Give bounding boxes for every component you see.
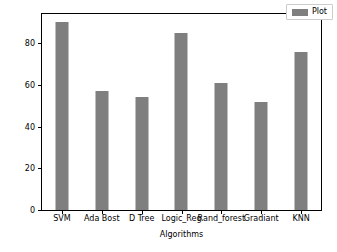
bar-svm[interactable]: [55, 22, 68, 210]
bar-slot: [42, 14, 82, 210]
plot-area: 020406080SVMAda BostD TreeLogic_RegRand_…: [42, 14, 321, 210]
bar-slot: [201, 14, 241, 210]
bar-logic-reg[interactable]: [175, 33, 188, 210]
x-axis-tick-label: D Tree: [129, 215, 154, 223]
x-axis-tick-label: KNN: [292, 215, 309, 223]
y-axis-tick-label: 0: [30, 207, 35, 215]
bar-slot: [122, 14, 162, 210]
y-axis-tick-label: 60: [25, 82, 35, 90]
bar-knn[interactable]: [295, 52, 308, 210]
bar-ada-bost[interactable]: [95, 91, 108, 210]
bar-d-tree[interactable]: [135, 97, 148, 210]
x-axis-tick-label: Logic_Reg: [161, 215, 201, 223]
bar-slot: [82, 14, 122, 210]
y-axis-tick: 0: [38, 210, 42, 211]
bar-chart-figure: 020406080SVMAda BostD TreeLogic_RegRand_…: [0, 0, 337, 252]
bar-slot: [162, 14, 202, 210]
legend-swatch-plot: [292, 9, 308, 16]
bar-slot: [241, 14, 281, 210]
y-axis-tick-label: 40: [25, 124, 35, 132]
x-axis-tick-label: SVM: [53, 215, 70, 223]
x-axis-label: Algorithms: [41, 231, 322, 239]
chart-legend: Plot: [286, 4, 333, 20]
y-axis-tick-label: 20: [25, 165, 35, 173]
y-axis-tick-label: 80: [25, 40, 35, 48]
x-axis-tick-label: Ada Bost: [84, 215, 120, 223]
bar-slot: [281, 14, 321, 210]
x-axis-tick-label: Rand_forest: [198, 215, 245, 223]
bar-rand-forest[interactable]: [215, 83, 228, 210]
plot-axes: 020406080SVMAda BostD TreeLogic_RegRand_…: [41, 13, 322, 211]
legend-label-plot: Plot: [312, 8, 327, 16]
x-axis-tick-label: Gradiant: [244, 215, 279, 223]
bar-gradiant[interactable]: [255, 102, 268, 210]
